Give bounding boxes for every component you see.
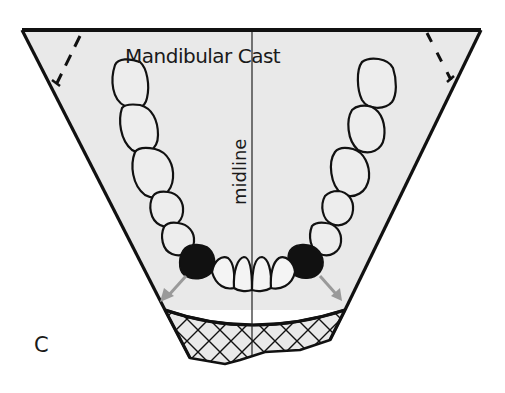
title-label: Mandibular Cast bbox=[125, 44, 281, 68]
mandibular-cast-diagram: Mandibular Cast midline C bbox=[0, 0, 505, 393]
midline-label: midline bbox=[229, 139, 250, 205]
panel-label: C bbox=[34, 333, 49, 357]
